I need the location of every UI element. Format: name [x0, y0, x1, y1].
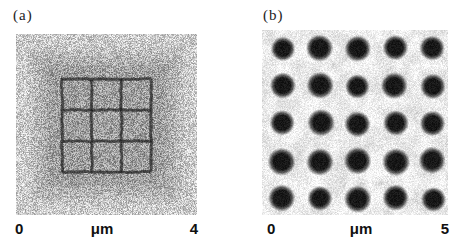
panel-b-scale-unit: μm — [350, 220, 373, 238]
panel-b-scale-end: 5 — [441, 220, 449, 238]
panel-a-scale-start: 0 — [15, 220, 23, 238]
panel-a-scale-end: 4 — [190, 220, 198, 238]
panel-b-scale-start: 0 — [267, 220, 275, 238]
panel-b-micrograph — [262, 30, 448, 215]
figure: { "figure": { "panels": [ { "label": "(a… — [0, 0, 462, 252]
panel-a-micrograph — [16, 34, 197, 215]
panel-a-label: (a) — [13, 7, 33, 24]
panel-a-scale-unit: μm — [91, 220, 114, 238]
panel-b-label: (b) — [263, 7, 284, 24]
